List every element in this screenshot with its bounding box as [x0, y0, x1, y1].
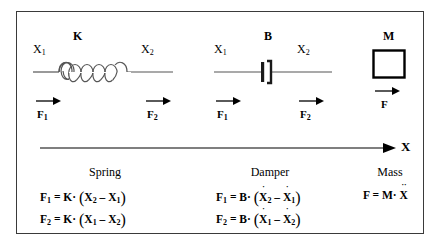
spring-coil-icon [33, 58, 173, 86]
damper-force-left-label: F1 [217, 109, 228, 120]
spring-force-left-arrow-icon [36, 96, 62, 106]
damper-equation-2: F2 = B· (˙X1 – ˙X2) [216, 212, 301, 228]
mass-equation-1: F = M· ˙˙X [363, 190, 408, 202]
spring-symbol-label: K [73, 30, 82, 42]
x-axis-arrow-icon [40, 142, 396, 154]
mass-force-label: F [381, 99, 388, 110]
mass-caption: Mass [360, 166, 420, 178]
spring-node-left-label: X1 [33, 43, 46, 55]
damper-node-right-label: X2 [297, 43, 310, 55]
x-axis-label: X [401, 140, 410, 153]
mass-symbol-label: M [383, 30, 394, 42]
velocity-term: ˙X [283, 214, 291, 226]
mass-force-arrow-icon [375, 86, 401, 96]
spring-force-right-label: F2 [147, 109, 158, 120]
spring-node-right-label: X2 [141, 43, 154, 55]
spring-force-left-label: F1 [37, 109, 48, 120]
spring-equation-1: F1 = K· (X2 – X1) [40, 190, 126, 206]
mass-block-icon [372, 49, 406, 79]
damper-node-left-label: X1 [214, 43, 227, 55]
spring-caption: Spring [55, 166, 155, 178]
acceleration-term: ˙˙X [400, 190, 408, 202]
damper-caption: Damper [220, 166, 320, 178]
spring-equation-2: F2 = K· (X1 – X2) [40, 212, 126, 228]
spring-force-right-arrow-icon [146, 96, 172, 106]
damper-equation-1: F1 = B· (˙X2 – ˙X1) [216, 190, 301, 206]
damper-symbol-label: B [264, 30, 272, 42]
velocity-term: ˙X [283, 192, 291, 204]
mechanical-elements-figure: K X1 X2 F1 [0, 0, 440, 248]
damper-force-left-arrow-icon [216, 96, 242, 106]
damper-force-right-arrow-icon [299, 96, 325, 106]
damper-dashpot-icon [214, 56, 332, 86]
damper-force-right-label: F2 [300, 109, 311, 120]
